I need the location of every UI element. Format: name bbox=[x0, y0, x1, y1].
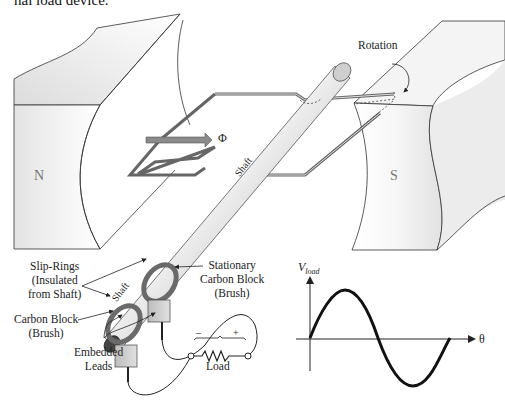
carbon-block-label: Carbon Block (Brush) bbox=[14, 312, 78, 340]
embedded-leads-line-2: Leads bbox=[74, 359, 123, 373]
slip-rings-label: Slip-Rings (Insulated from Shaft) bbox=[28, 259, 81, 301]
embedded-leads-label: Embedded Leads bbox=[74, 345, 123, 373]
chart-y-axis-label: Vload bbox=[298, 260, 320, 279]
flux-label: Φ bbox=[218, 131, 227, 145]
embedded-leads-line-1: Embedded bbox=[74, 345, 123, 359]
plus-sign: + bbox=[233, 326, 239, 340]
slip-rings-line-3: from Shaft) bbox=[28, 287, 81, 301]
carbon-block-line-2: (Brush) bbox=[14, 326, 78, 340]
slip-rings-line-1: Slip-Rings bbox=[28, 259, 81, 273]
stationary-brush-line-2: Carbon Block bbox=[200, 272, 264, 286]
rotation-label: Rotation bbox=[358, 38, 398, 52]
stationary-brush-line-3: (Brush) bbox=[200, 286, 264, 300]
stationary-brush-label: Stationary Carbon Block (Brush) bbox=[200, 258, 264, 300]
generator-diagram bbox=[0, 0, 505, 400]
north-pole-label: N bbox=[34, 168, 44, 184]
north-pole bbox=[14, 14, 190, 249]
slip-rings-line-2: (Insulated bbox=[28, 273, 81, 287]
south-pole-label: S bbox=[390, 168, 398, 184]
brush-rear bbox=[148, 300, 170, 340]
chart-x-axis-label: θ bbox=[479, 332, 485, 346]
minus-sign: – bbox=[196, 326, 201, 340]
south-pole bbox=[352, 21, 505, 250]
vload-chart bbox=[296, 276, 476, 386]
y-label-sub: load bbox=[305, 267, 319, 276]
stationary-brush-line-1: Stationary bbox=[200, 258, 264, 272]
load-label: Load bbox=[206, 359, 230, 373]
carbon-block-line-1: Carbon Block bbox=[14, 312, 78, 326]
